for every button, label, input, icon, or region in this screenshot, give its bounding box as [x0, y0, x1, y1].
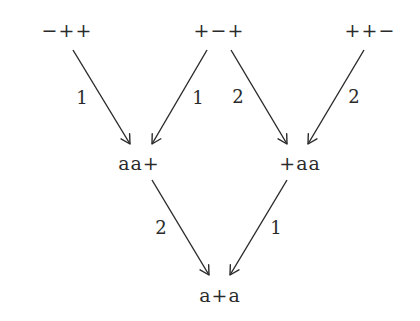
- edges-layer: [0, 0, 420, 321]
- node-minus-plus-plus: −++: [42, 21, 93, 40]
- edge-label-n3-n5: 2: [348, 88, 359, 106]
- diagram-canvas: −++ +−+ ++− aa+ +aa a+a 1 1 2 2 2 1: [0, 0, 420, 321]
- edge-label-n2-n4: 1: [192, 89, 203, 107]
- edge-label-n2-n5: 2: [232, 88, 243, 106]
- edge-label-n5-n6: 1: [270, 219, 281, 237]
- node-aa-plus: aa+: [118, 154, 160, 173]
- edge-label-n1-n4: 1: [76, 89, 87, 107]
- node-plus-aa: +aa: [279, 154, 321, 173]
- node-a-plus-a: a+a: [199, 286, 241, 305]
- node-plus-minus-plus: +−+: [194, 21, 245, 40]
- edge-label-n4-n6: 2: [155, 219, 166, 237]
- node-plus-plus-minus: ++−: [345, 21, 396, 40]
